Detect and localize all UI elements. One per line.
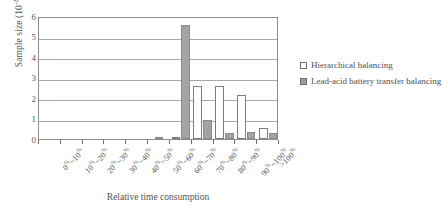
x-axis-category-labels: 0%~10%10%~20%20%~30%30%~40%40%~50%50%~60… [0,140,448,200]
bar-group [83,18,105,139]
y-axis-title-exponent: -28 [12,0,19,5]
bar-group [235,18,257,139]
plot-area [38,17,278,140]
y-axis-tick-label: 1 [22,114,36,124]
legend-item: Lead-acid battery transfer balancing [300,76,446,88]
bar [172,137,181,139]
bar [259,128,268,139]
bar [269,133,278,139]
bar [225,133,234,139]
legend-label: Hierarchical balancing [311,60,446,72]
bar [181,25,190,139]
bar [193,86,202,139]
x-axis-title: Relative time consumption [38,192,278,202]
bar [215,86,224,139]
legend: Hierarchical balancingLead-acid battery … [300,60,446,91]
bar [247,132,256,139]
legend-swatch [300,62,307,69]
bar-group [214,18,236,139]
bar [203,120,212,139]
legend-label: Lead-acid battery transfer balancing [311,76,446,88]
bar [155,137,164,139]
legend-item: Hierarchical balancing [300,60,446,72]
bar-group [61,18,83,139]
y-axis-tick-label: 3 [22,73,36,83]
y-axis-tick-label: 5 [22,32,36,42]
y-axis-tick-label: 6 [22,12,36,22]
bar-group [148,18,170,139]
bar-chart-figure: Sample size (10-28) 6543210 0%~10%10%~20… [0,0,448,214]
bar-series-container [39,18,277,139]
legend-swatch [300,78,307,85]
y-axis-tick-label: 4 [22,53,36,63]
bar-group [126,18,148,139]
y-axis-tick-label: 2 [22,94,36,104]
bar-group [39,18,61,139]
bar-group [192,18,214,139]
bar [237,95,246,139]
bar-group [104,18,126,139]
bar-group [257,18,279,139]
bar-group [170,18,192,139]
